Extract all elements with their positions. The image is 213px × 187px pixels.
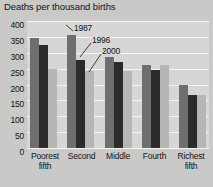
bar (114, 62, 123, 148)
plot-area (27, 21, 209, 148)
x-axis-tick: Richestfifth (174, 151, 208, 179)
x-axis-tick-line1: Second (68, 151, 96, 161)
x-axis-tick: Middle (101, 151, 135, 179)
y-axis-tick: 50 (15, 132, 24, 141)
x-axis-tick-line1: Fourth (143, 151, 166, 161)
y-axis-tick: 150 (10, 100, 24, 109)
x-axis-tick: Second (65, 151, 99, 179)
y-axis-tick: 200 (10, 85, 24, 94)
bar (151, 70, 160, 148)
bar (179, 85, 188, 148)
gridline (27, 148, 209, 149)
bar (160, 65, 169, 149)
bar-group (179, 21, 206, 148)
x-axis-tick: Poorestfifth (28, 151, 62, 179)
bar (67, 35, 76, 148)
bar-group (67, 21, 94, 148)
bar (39, 45, 48, 148)
bar (188, 95, 197, 148)
x-axis: PoorestfifthSecondMiddleFourthRichestfif… (27, 151, 209, 179)
bar-group (30, 21, 57, 148)
bar (30, 38, 39, 148)
bar (85, 71, 94, 148)
x-axis-tick: Fourth (138, 151, 172, 179)
y-axis-tick: 300 (10, 53, 24, 62)
bar (105, 57, 114, 148)
x-axis-tick-line2: fifth (28, 161, 62, 171)
bar (197, 95, 206, 148)
y-axis-tick: 100 (10, 116, 24, 125)
bar (48, 69, 57, 148)
annotation-1996: 1996 (92, 36, 110, 45)
bar (76, 60, 85, 148)
annotation-2000: 2000 (102, 47, 120, 56)
bar-chart: Deaths per thousand births 4003503002502… (0, 0, 213, 187)
annotation-1987: 1987 (74, 24, 92, 33)
x-axis-tick-line1: Poorest (31, 151, 59, 161)
chart-title: Deaths per thousand births (4, 1, 115, 12)
bar (142, 65, 151, 148)
y-axis-tick: 350 (10, 37, 24, 46)
bars-layer (27, 21, 209, 148)
x-axis-tick-line1: Middle (106, 151, 130, 161)
x-axis-tick-line1: Richest (178, 151, 205, 161)
y-axis: 400350300250200150100500 (0, 17, 26, 151)
y-axis-tick: 250 (10, 69, 24, 78)
y-axis-tick: 0 (19, 148, 24, 157)
bar-group (142, 21, 169, 148)
bar (123, 71, 132, 148)
y-axis-tick: 400 (10, 21, 24, 30)
x-axis-tick-line2: fifth (174, 161, 208, 171)
